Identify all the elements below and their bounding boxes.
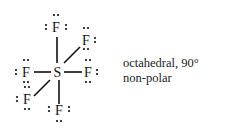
geometry-label: octahedral, 90° bbox=[123, 56, 199, 71]
bond-upper-right bbox=[64, 47, 80, 63]
svg-text:F: F bbox=[22, 65, 30, 80]
svg-text:F: F bbox=[23, 92, 31, 107]
atom-fluorine-lower-left: F bbox=[16, 86, 31, 110]
atom-fluorine-right: F bbox=[84, 59, 98, 83]
atom-fluorine-left: F bbox=[15, 59, 30, 83]
atom-fluorine-bottom: F bbox=[48, 103, 70, 122]
bond-lower-left bbox=[34, 80, 50, 96]
svg-text:F: F bbox=[52, 20, 60, 35]
atom-fluorine-top: F bbox=[45, 14, 67, 35]
svg-text:F: F bbox=[82, 33, 90, 48]
svg-text:F: F bbox=[55, 103, 63, 118]
svg-text:F: F bbox=[84, 65, 92, 80]
polarity-label: non-polar bbox=[123, 71, 199, 86]
atom-fluorine-upper-right: F bbox=[82, 27, 96, 50]
geometry-caption: octahedral, 90° non-polar bbox=[123, 56, 199, 86]
atom-sulfur: S bbox=[54, 65, 62, 80]
